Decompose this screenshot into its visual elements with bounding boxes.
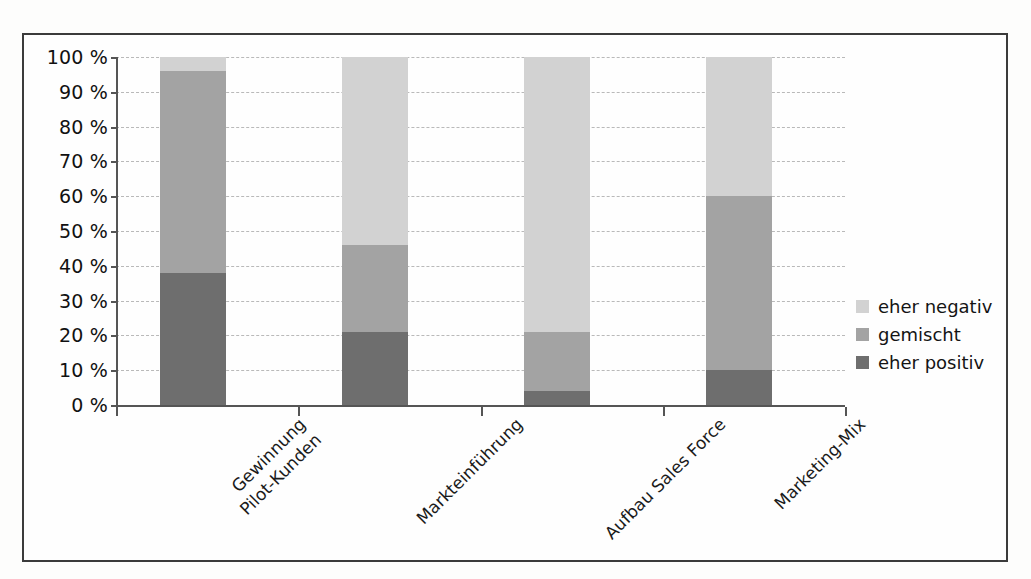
x-axis-tick bbox=[116, 407, 118, 416]
legend-label: eher positiv bbox=[878, 352, 984, 373]
bar-segment[interactable] bbox=[160, 273, 226, 405]
y-axis-tick-label: 30 % bbox=[12, 290, 108, 312]
bar-stack bbox=[160, 57, 226, 405]
y-axis-tick-label: 90 % bbox=[12, 81, 108, 103]
bar-segment[interactable] bbox=[342, 332, 408, 405]
bar-segment[interactable] bbox=[342, 57, 408, 245]
y-axis-line bbox=[116, 57, 118, 405]
y-axis-tick bbox=[111, 92, 118, 94]
y-axis-tick-label: 100 % bbox=[12, 46, 108, 68]
bar-segment[interactable] bbox=[524, 391, 590, 405]
bar-segment[interactable] bbox=[342, 245, 408, 332]
bar-segment[interactable] bbox=[706, 57, 772, 196]
legend-item[interactable]: eher positiv bbox=[856, 352, 1004, 373]
y-axis-tick-label: 10 % bbox=[12, 359, 108, 381]
chart-legend: eher negativgemischteher positiv bbox=[856, 296, 1004, 380]
legend-swatch bbox=[856, 300, 869, 313]
bar-segment[interactable] bbox=[524, 332, 590, 391]
y-axis-tick bbox=[111, 127, 118, 129]
y-axis-tick bbox=[111, 231, 118, 233]
y-axis-labels: 100 %90 %80 %70 %60 %50 %40 %30 %20 %10 … bbox=[4, 57, 108, 405]
bar-stack bbox=[706, 57, 772, 405]
legend-item[interactable]: eher negativ bbox=[856, 296, 1004, 317]
bar-stack bbox=[524, 57, 590, 405]
bar-segment[interactable] bbox=[160, 71, 226, 273]
y-axis-tick bbox=[111, 266, 118, 268]
bar-segment[interactable] bbox=[524, 57, 590, 332]
x-axis-line bbox=[116, 405, 845, 407]
y-axis-tick-label: 20 % bbox=[12, 324, 108, 346]
legend-label: eher negativ bbox=[878, 296, 992, 317]
y-axis-tick-label: 70 % bbox=[12, 150, 108, 172]
x-axis-tick bbox=[845, 407, 847, 416]
y-axis-tick-label: 80 % bbox=[12, 116, 108, 138]
legend-swatch bbox=[856, 328, 869, 341]
x-axis-tick bbox=[663, 407, 665, 416]
y-axis-tick-label: 0 % bbox=[12, 394, 108, 416]
y-axis-tick bbox=[111, 57, 118, 59]
bar-segment[interactable] bbox=[706, 370, 772, 405]
y-axis-tick bbox=[111, 301, 118, 303]
legend-item[interactable]: gemischt bbox=[856, 324, 1004, 345]
y-axis-tick-label: 60 % bbox=[12, 185, 108, 207]
bar-segment[interactable] bbox=[706, 196, 772, 370]
x-axis-tick bbox=[298, 407, 300, 416]
bar-segment[interactable] bbox=[160, 57, 226, 71]
x-axis-tick bbox=[481, 407, 483, 416]
plot-area bbox=[116, 57, 845, 405]
y-axis-tick bbox=[111, 196, 118, 198]
y-axis-tick bbox=[111, 370, 118, 372]
y-axis-tick bbox=[111, 161, 118, 163]
chart-page: 100 %90 %80 %70 %60 %50 %40 %30 %20 %10 … bbox=[0, 0, 1031, 579]
y-axis-tick-label: 40 % bbox=[12, 255, 108, 277]
legend-swatch bbox=[856, 356, 869, 369]
legend-label: gemischt bbox=[878, 324, 961, 345]
y-axis-tick-label: 50 % bbox=[12, 220, 108, 242]
y-axis-tick bbox=[111, 335, 118, 337]
bar-stack bbox=[342, 57, 408, 405]
